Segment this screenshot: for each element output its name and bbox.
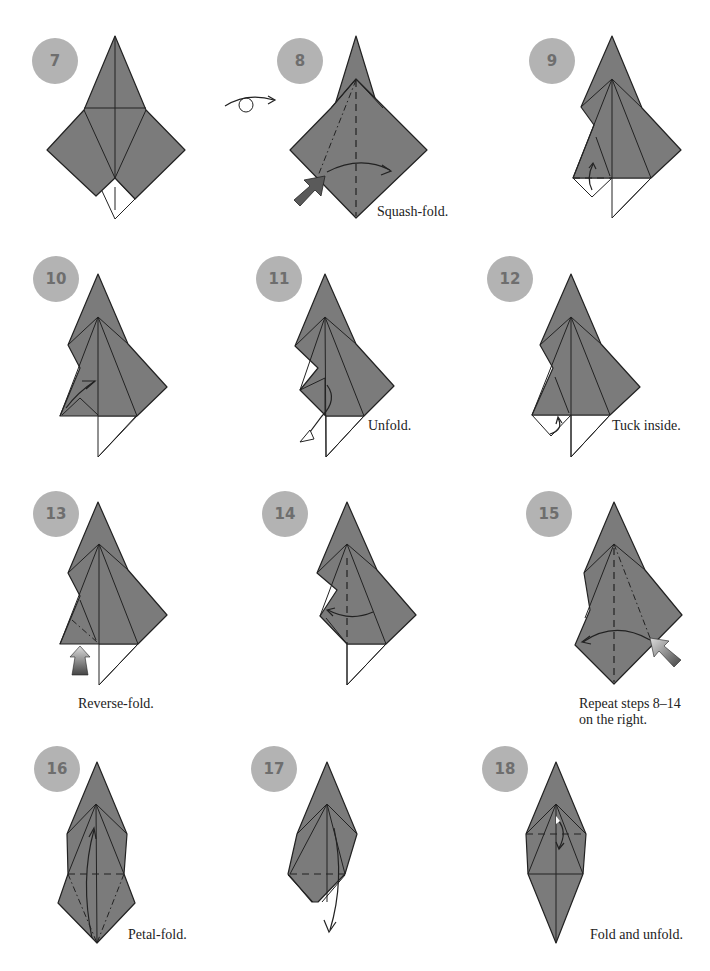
step-caption: Unfold.: [368, 417, 411, 434]
push-arrow-icon: [70, 646, 90, 675]
step-13: 13 Reverse-fold.: [0, 460, 230, 700]
fold-diagram: [230, 700, 470, 971]
fold-diagram: [230, 240, 470, 450]
step-17: 17: [230, 700, 470, 971]
fold-diagram: [0, 460, 230, 700]
step-15: 15 Repeat steps 8–14 on the right.: [470, 460, 710, 700]
step-11: 11 Unfold.: [230, 240, 470, 450]
step-caption: Fold and unfold.: [590, 926, 683, 943]
step-caption: Squash-fold.: [377, 203, 448, 220]
step-16: 16 Petal-fold.: [0, 700, 230, 971]
step-7: 7: [0, 0, 230, 230]
fold-diagram: [0, 0, 230, 230]
step-caption: Tuck inside.: [612, 417, 681, 434]
fold-diagram: [230, 460, 470, 700]
fold-diagram: [230, 0, 470, 230]
step-8: 8 Squash-fold.: [230, 0, 470, 230]
step-caption: Petal-fold.: [128, 926, 187, 943]
fold-diagram: [470, 0, 710, 230]
push-arrow-icon: [294, 176, 325, 206]
fold-diagram: [0, 240, 230, 450]
fold-diagram: [470, 460, 710, 700]
push-arrow-icon: [650, 638, 681, 667]
step-10: 10: [0, 240, 230, 450]
step-14: 14: [230, 460, 470, 700]
fold-diagram: [0, 700, 230, 971]
step-18: 18 Fold and unfold.: [470, 700, 710, 971]
step-12: 12 Tuck inside.: [470, 240, 710, 450]
step-9: 9: [470, 0, 710, 230]
